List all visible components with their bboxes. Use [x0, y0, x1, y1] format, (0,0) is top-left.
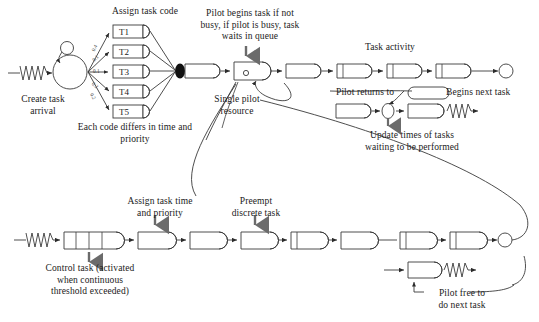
activity-update-1 [408, 104, 444, 118]
activity-top-0 [185, 64, 220, 78]
label-begins-next-task: Begins next task [446, 87, 510, 99]
queue-icon [234, 62, 271, 80]
task-code-label-t5: T5 [119, 107, 129, 117]
task-code-label-t3: T3 [119, 67, 129, 77]
activity-update-0 [336, 104, 371, 118]
activity-top-2 [337, 64, 372, 78]
activity-bottom-2 [241, 232, 279, 249]
pilot-returns-box [408, 87, 449, 99]
circle-node-icon [53, 55, 87, 89]
label-pilot-begins-task: Pilot begins task if not busy, if pilot … [185, 8, 315, 43]
label-preempt-discrete-task: Preempt discrete task [220, 196, 292, 219]
activity-bottom-4 [341, 232, 379, 249]
zigzag-source-icon-bottom [14, 233, 60, 247]
label-task-activity: Task activity [355, 42, 425, 54]
branch-probability-t3: 0.1 [93, 68, 99, 74]
zigzag-terminator-icon-bottom [444, 263, 476, 277]
label-single-pilot-resource: Single pilot resource [198, 94, 276, 117]
filled-merge-icon [175, 64, 185, 79]
label-each-code-differs: Each code differs in time and priority [60, 122, 210, 145]
label-control-task: Control task (activated when continuous … [20, 263, 160, 298]
activity-top-4 [436, 64, 471, 78]
zigzag-source-icon [8, 66, 52, 80]
zigzag-terminator-icon [447, 104, 478, 118]
activity-bottom-1 [190, 232, 228, 249]
diagram-canvas: Assign task code T1 T2 T3 T4 T5 0.4 0.1 … [0, 0, 539, 322]
activity-bottom-5 [400, 232, 438, 249]
activity-bottom-0 [138, 232, 177, 249]
task-code-label-t1: T1 [119, 27, 129, 37]
activity-pilot-free [408, 262, 442, 278]
merge-lens-icon [382, 104, 394, 119]
label-update-times: Update times of tasks waiting to be perf… [330, 130, 494, 153]
activity-top-1 [286, 64, 321, 78]
activity-bottom-3 [291, 232, 329, 249]
activity-bottom-6 [450, 232, 488, 249]
task-code-label-t4: T4 [119, 87, 129, 97]
label-assign-task-time: Assign task time and priority [115, 196, 205, 219]
segmented-queue-icon [64, 232, 125, 249]
sink-circle-icon-bottom [498, 233, 512, 247]
sink-circle-icon [499, 64, 513, 78]
task-code-label-t2: T2 [119, 47, 129, 57]
label-create-task-arrival: Create task arrival [8, 94, 78, 117]
label-pilot-free-to: Pilot free to do next task [424, 288, 500, 311]
self-loop-icon [61, 42, 74, 55]
label-pilot-returns-to: Pilot returns to [336, 87, 394, 99]
activity-top-3 [387, 64, 422, 78]
